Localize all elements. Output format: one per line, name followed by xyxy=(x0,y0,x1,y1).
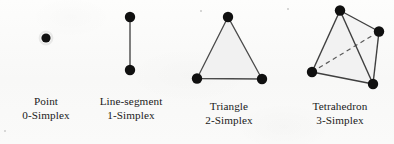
vertex-dot-apex xyxy=(223,12,233,22)
vertex-dot-bottom-right xyxy=(257,74,267,84)
diagram-tetrahedron xyxy=(307,5,384,89)
diagram-line-segment xyxy=(125,12,135,75)
vertex-dot-bottom-left xyxy=(192,73,202,83)
diagram-point xyxy=(40,32,53,45)
caption-point-name: Point xyxy=(6,94,86,108)
caption-tetrahedron-order: 3-Simplex xyxy=(288,113,392,127)
vertex-dot-left xyxy=(307,67,317,77)
diagram-triangle xyxy=(192,12,267,84)
caption-point: Point 0-Simplex xyxy=(6,94,86,122)
scan-speck xyxy=(200,10,202,12)
scan-speck xyxy=(4,130,6,132)
caption-line-segment-order: 1-Simplex xyxy=(87,108,175,122)
vertex-dot-top xyxy=(125,12,135,22)
caption-triangle: Triangle 2-Simplex xyxy=(186,99,272,127)
caption-tetrahedron: Tetrahedron 3-Simplex xyxy=(288,99,392,127)
simplex-figure-page: Point 0-Simplex Line-segment 1-Simplex T… xyxy=(0,0,394,144)
caption-tetrahedron-name: Tetrahedron xyxy=(288,99,392,113)
vertex-dot xyxy=(41,33,50,42)
caption-line-segment-name: Line-segment xyxy=(87,94,175,108)
vertex-dot-top xyxy=(335,5,345,15)
vertex-dot-bottom-right xyxy=(368,79,378,89)
vertex-dot-bottom xyxy=(125,65,135,75)
caption-line-segment: Line-segment 1-Simplex xyxy=(87,94,175,122)
caption-point-order: 0-Simplex xyxy=(6,108,86,122)
vertex-dot-right xyxy=(374,26,384,36)
triangle-face xyxy=(197,17,262,79)
caption-triangle-name: Triangle xyxy=(186,99,272,113)
scan-speck xyxy=(287,8,289,10)
caption-triangle-order: 2-Simplex xyxy=(186,113,272,127)
